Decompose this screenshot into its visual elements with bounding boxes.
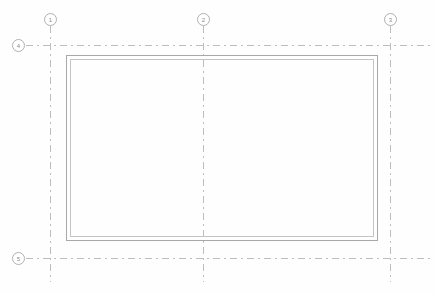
grid-bubble-label-5: 5 (17, 256, 20, 262)
grid-line-vertical-3[interactable] (390, 26, 391, 282)
grid-bubble-label-1: 1 (49, 17, 52, 23)
grid-bubble-1[interactable]: 1 (44, 13, 57, 26)
grid-bubble-5[interactable]: 5 (12, 252, 25, 265)
grid-bubble-label-3: 3 (389, 17, 392, 23)
grid-bubble-label-4: 4 (17, 43, 20, 49)
grid-line-vertical-1[interactable] (50, 26, 51, 282)
grid-bubble-label-2: 2 (202, 17, 205, 23)
grid-bubble-2[interactable]: 2 (197, 13, 210, 26)
grid-bubble-3[interactable]: 3 (384, 13, 397, 26)
grid-line-horizontal-4[interactable] (26, 45, 433, 46)
grid-line-horizontal-5[interactable] (26, 258, 433, 259)
cad-drawing-canvas[interactable]: 1 2 3 4 5 (0, 0, 435, 293)
grid-bubble-4[interactable]: 4 (12, 39, 25, 52)
wall-outline-inner[interactable] (70, 59, 374, 237)
